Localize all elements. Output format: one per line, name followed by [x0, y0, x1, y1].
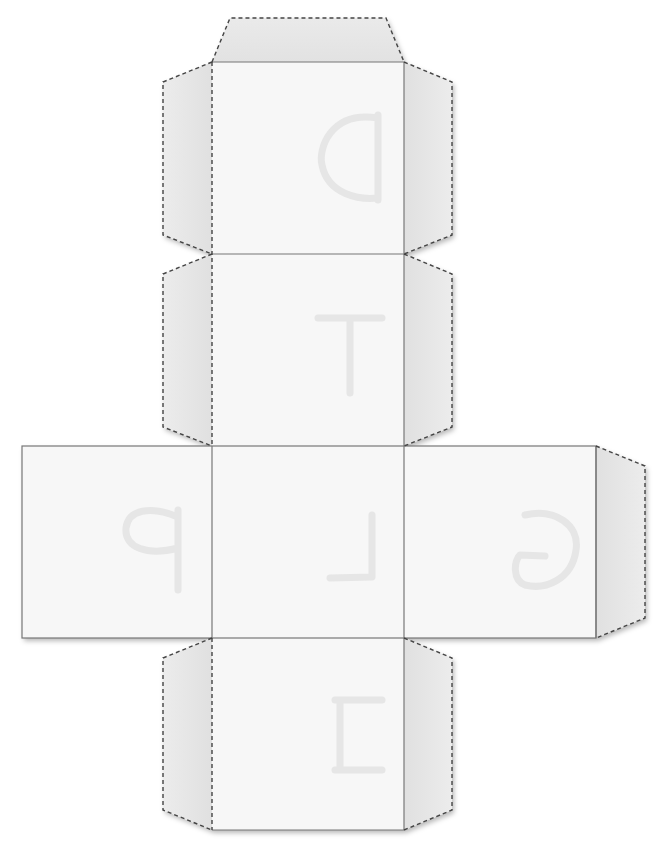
- tab-middle-right-end: [596, 446, 645, 638]
- cube-net-diagram: [0, 0, 660, 852]
- face-middle-left: [22, 446, 212, 638]
- tab-bottom-right: [404, 638, 452, 830]
- face-middle-right: [404, 446, 596, 638]
- tab-upper-middle-right: [404, 254, 452, 446]
- tab-upper-middle-left: [163, 254, 212, 446]
- tab-top-face-left: [163, 62, 212, 254]
- face-bottom: [212, 638, 404, 830]
- tab-top-face-right: [404, 62, 452, 254]
- tab-bottom-left: [163, 638, 212, 830]
- face-upper-middle: [212, 254, 404, 446]
- tab-top: [212, 18, 404, 62]
